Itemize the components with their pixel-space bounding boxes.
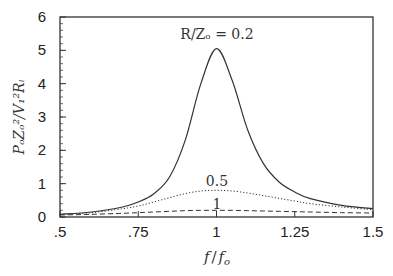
annotation-1: 1 xyxy=(213,196,222,212)
x-tick-label: 1.25 xyxy=(280,223,309,240)
y-tick-label: 2 xyxy=(38,141,46,158)
curves xyxy=(60,49,373,215)
y-tick-label: 4 xyxy=(38,75,46,92)
x-axis-ticks: .5.7511.251.5 xyxy=(54,211,384,240)
curve-solid xyxy=(60,49,373,215)
y-axis-label: PₒZₒ²/V₁²Rᵢ xyxy=(11,79,27,155)
annotation-r-zo-0-2: R/Zₒ = 0.2 xyxy=(180,26,253,42)
annotation-0-5: 0.5 xyxy=(206,173,228,189)
x-axis-label: f/fo xyxy=(203,248,230,267)
y-axis-ticks: 0123456 xyxy=(38,8,66,225)
y-tick-label: 5 xyxy=(38,41,46,58)
y-tick-label: 3 xyxy=(38,108,46,125)
x-tick-label: .5 xyxy=(54,223,67,240)
x-tick-label: .75 xyxy=(128,223,149,240)
x-tick-label: 1.5 xyxy=(363,223,384,240)
x-tick-label: 1 xyxy=(212,223,220,240)
y-tick-label: 1 xyxy=(38,175,46,192)
resonance-chart: 0123456 .5.7511.251.5 R/Zₒ = 0.2 0.5 1 f… xyxy=(0,0,393,276)
y-tick-label: 0 xyxy=(38,208,46,225)
y-tick-label: 6 xyxy=(38,8,46,25)
